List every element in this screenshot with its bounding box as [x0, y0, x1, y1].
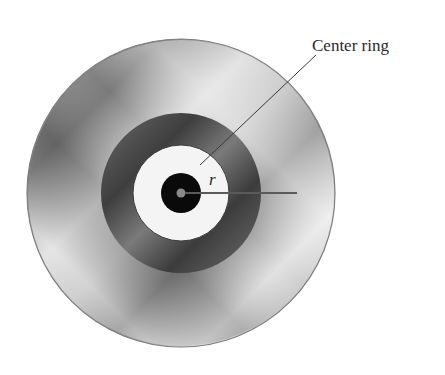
center-ring-label: Center ring	[312, 36, 389, 56]
cd-disc-diagram	[0, 0, 445, 375]
spindle-dot	[177, 189, 186, 198]
radius-label: r	[209, 170, 216, 190]
